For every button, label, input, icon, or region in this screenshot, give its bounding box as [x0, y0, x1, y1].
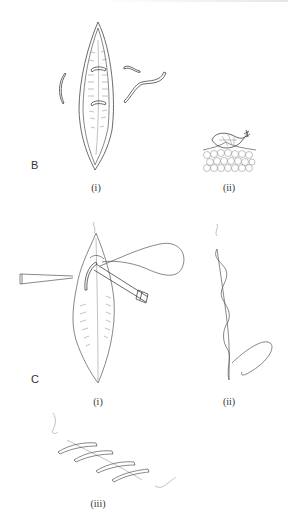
suture-loose-loop	[232, 342, 272, 375]
suture-through-tissue	[90, 255, 104, 259]
tissue-hatch-marks	[80, 296, 111, 346]
loose-suture-right-top	[124, 66, 140, 72]
suture-ends	[244, 130, 250, 137]
sublabel-c-iii: (iii)	[91, 498, 106, 509]
panel-b-ii-cross-section	[203, 130, 256, 172]
panel-c-ii-continuous-suture	[216, 224, 272, 380]
sublabel-c-i: (i)	[93, 396, 102, 407]
suture-tail-end	[155, 477, 175, 487]
suture-tail-top	[216, 224, 217, 236]
suture-loop	[100, 243, 184, 275]
incision-outer-edge	[79, 22, 113, 170]
incision-line	[217, 249, 229, 380]
stitch-4	[112, 469, 149, 482]
stitch-3	[96, 462, 135, 473]
sublabel-c-ii: (ii)	[223, 396, 235, 407]
sublabel-b-ii: (ii)	[223, 182, 235, 193]
panel-c-iii-completed-suture	[52, 413, 175, 487]
incision-inner-edge	[83, 28, 109, 165]
forceps	[20, 274, 73, 284]
panel-c-i-suturing	[20, 222, 184, 383]
incision-midline	[96, 238, 98, 382]
suture-illustration	[0, 0, 288, 529]
tissue-cells	[204, 150, 256, 172]
suture-tail-start	[52, 413, 58, 434]
running-suture	[216, 249, 230, 380]
panel-b-i-incision	[59, 22, 166, 170]
tissue-surface	[203, 142, 256, 150]
panel-label-c: C	[31, 373, 39, 385]
curved-needle	[85, 262, 97, 290]
incision-midline	[96, 40, 99, 155]
suture-tail-top	[94, 222, 95, 233]
incision-line	[67, 440, 142, 480]
panel-label-b: B	[31, 159, 38, 171]
loose-suture-right-long	[124, 72, 166, 103]
loose-suture-left	[59, 73, 66, 104]
needle-holder-shaft	[94, 264, 148, 302]
sublabel-b-i: (i)	[91, 182, 100, 193]
